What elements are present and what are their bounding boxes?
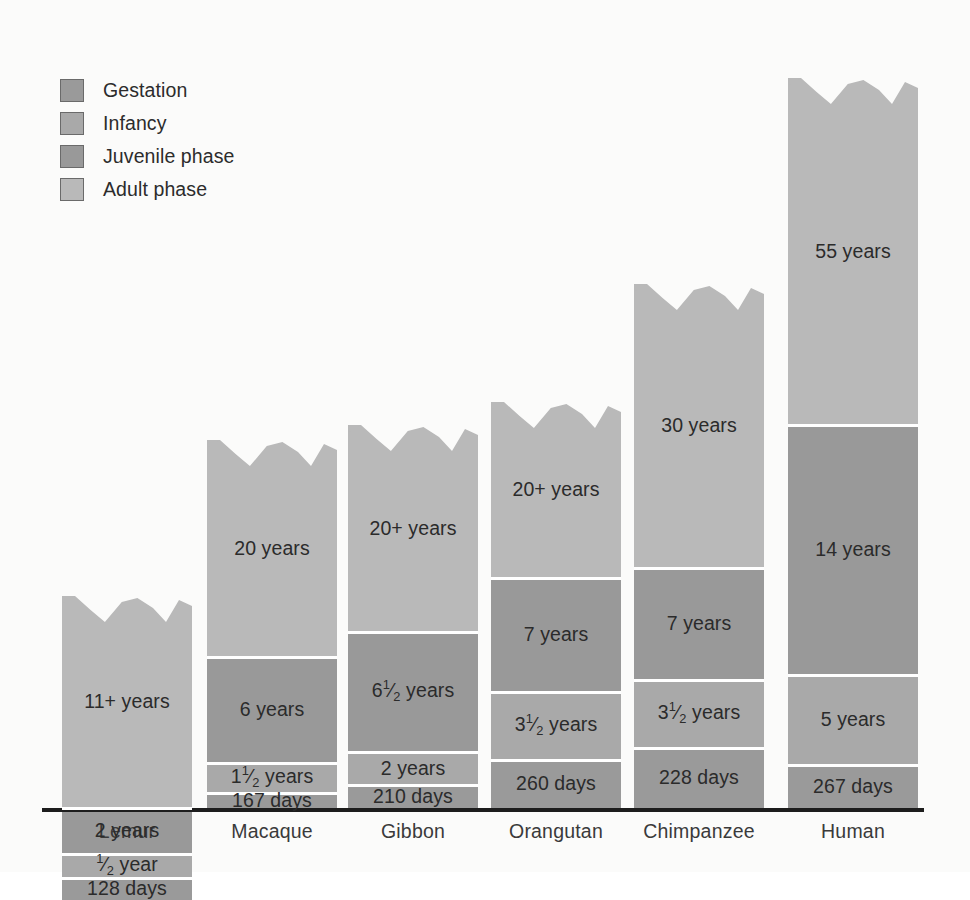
bar-segment-human-infancy[interactable]: 5 years xyxy=(788,675,918,765)
segment-value-label: 267 days xyxy=(813,777,893,797)
bar-human[interactable]: 55 years14 years5 years267 days xyxy=(788,78,918,808)
bar-torn-top-edge xyxy=(348,425,478,451)
segment-divider xyxy=(634,679,764,682)
bar-torn-top-edge xyxy=(62,596,192,622)
bar-segment-gibbon-gestation[interactable]: 210 days xyxy=(348,785,478,809)
tick-label-chimpanzee: Chimpanzee xyxy=(634,820,764,843)
segment-divider xyxy=(491,691,621,694)
bar-macaque[interactable]: 20 years6 years11⁄2 years167 days xyxy=(207,440,337,808)
bar-segment-macaque-gestation[interactable]: 167 days xyxy=(207,793,337,809)
bar-segment-human-adult[interactable]: 55 years xyxy=(788,78,918,425)
legend-item-adult-phase: Adult phase xyxy=(60,173,235,206)
legend-label-infancy: Infancy xyxy=(103,112,167,135)
tick-label-human: Human xyxy=(788,820,918,843)
segment-divider xyxy=(634,747,764,750)
bar-segment-chimpanzee-juvenile[interactable]: 7 years xyxy=(634,568,764,680)
segment-value-label: 7 years xyxy=(667,614,732,634)
bar-segment-macaque-juvenile[interactable]: 6 years xyxy=(207,657,337,763)
bar-segment-orangutan-gestation[interactable]: 260 days xyxy=(491,760,621,808)
segment-divider xyxy=(348,751,478,754)
bar-orangutan[interactable]: 20+ years7 years31⁄2 years260 days xyxy=(491,402,621,808)
segment-value-label: 6 years xyxy=(240,700,305,720)
bar-segment-lemur-gestation[interactable]: 128 days xyxy=(62,878,192,900)
bar-torn-top-edge xyxy=(207,440,337,466)
segment-value-label: 61⁄2 years xyxy=(372,679,455,704)
segment-divider xyxy=(62,807,192,810)
bar-segment-orangutan-adult[interactable]: 20+ years xyxy=(491,402,621,578)
legend-label-gestation: Gestation xyxy=(103,79,187,102)
bar-segment-gibbon-adult[interactable]: 20+ years xyxy=(348,425,478,632)
bar-segment-orangutan-juvenile[interactable]: 7 years xyxy=(491,578,621,692)
bar-torn-top-edge xyxy=(788,78,918,104)
segment-value-label: 31⁄2 years xyxy=(515,713,598,738)
segment-value-label: 14 years xyxy=(815,540,891,560)
segment-divider xyxy=(491,759,621,762)
bar-segment-chimpanzee-adult[interactable]: 30 years xyxy=(634,284,764,568)
segment-value-label: 30 years xyxy=(661,416,737,436)
segment-divider xyxy=(634,567,764,570)
bar-gibbon[interactable]: 20+ years61⁄2 years2 years210 days xyxy=(348,425,478,808)
segment-value-label: 167 days xyxy=(232,791,312,811)
segment-value-label: 55 years xyxy=(815,242,891,262)
segment-value-label: 2 years xyxy=(95,821,160,841)
segment-value-label: 260 days xyxy=(516,774,596,794)
segment-value-label: 2 years xyxy=(381,759,446,779)
legend-label-adult-phase: Adult phase xyxy=(103,178,207,201)
segment-divider xyxy=(788,764,918,767)
segment-value-label: 210 days xyxy=(373,787,453,807)
segment-value-label: 31⁄2 years xyxy=(658,701,741,726)
tick-label-macaque: Macaque xyxy=(207,820,337,843)
legend-item-infancy: Infancy xyxy=(60,107,235,140)
bar-torn-top-edge xyxy=(491,402,621,428)
legend-swatch-juvenile-phase xyxy=(60,145,84,168)
segment-value-label: 7 years xyxy=(524,625,589,645)
segment-value-label: 1⁄2 year xyxy=(96,853,158,878)
bar-segment-lemur-adult[interactable]: 11+ years xyxy=(62,596,192,808)
segment-divider xyxy=(788,424,918,427)
bar-segment-chimpanzee-infancy[interactable]: 31⁄2 years xyxy=(634,680,764,748)
bar-lemur[interactable]: 11+ years2 years1⁄2 year128 days xyxy=(62,596,192,808)
tick-label-gibbon: Gibbon xyxy=(348,820,478,843)
bar-segment-orangutan-infancy[interactable]: 31⁄2 years xyxy=(491,692,621,760)
bar-segment-human-juvenile[interactable]: 14 years xyxy=(788,425,918,675)
segment-value-label: 228 days xyxy=(659,768,739,788)
legend-swatch-infancy xyxy=(60,112,84,135)
segment-divider xyxy=(491,577,621,580)
bar-torn-top-edge xyxy=(634,284,764,310)
bar-chimpanzee[interactable]: 30 years7 years31⁄2 years228 days xyxy=(634,284,764,808)
segment-divider xyxy=(348,631,478,634)
chart-legend: Gestation Infancy Juvenile phase Adult p… xyxy=(60,74,235,206)
segment-divider xyxy=(207,656,337,659)
legend-swatch-adult-phase xyxy=(60,178,84,201)
bar-segment-gibbon-infancy[interactable]: 2 years xyxy=(348,752,478,785)
segment-value-label: 11⁄2 years xyxy=(231,765,314,790)
segment-value-label: 20 years xyxy=(234,539,310,559)
legend-swatch-gestation xyxy=(60,79,84,102)
legend-label-juvenile-phase: Juvenile phase xyxy=(103,145,235,168)
segment-value-label: 20+ years xyxy=(369,519,456,539)
bar-segment-human-gestation[interactable]: 267 days xyxy=(788,765,918,808)
tick-label-orangutan: Orangutan xyxy=(491,820,621,843)
legend-item-juvenile-phase: Juvenile phase xyxy=(60,140,235,173)
bar-segment-gibbon-juvenile[interactable]: 61⁄2 years xyxy=(348,632,478,752)
segment-divider xyxy=(788,674,918,677)
legend-item-gestation: Gestation xyxy=(60,74,235,107)
bar-segment-chimpanzee-gestation[interactable]: 228 days xyxy=(634,748,764,808)
segment-value-label: 11+ years xyxy=(84,692,170,712)
segment-value-label: 5 years xyxy=(821,710,886,730)
bar-segment-macaque-adult[interactable]: 20 years xyxy=(207,440,337,657)
segment-value-label: 128 days xyxy=(87,879,167,899)
segment-value-label: 20+ years xyxy=(512,480,599,500)
